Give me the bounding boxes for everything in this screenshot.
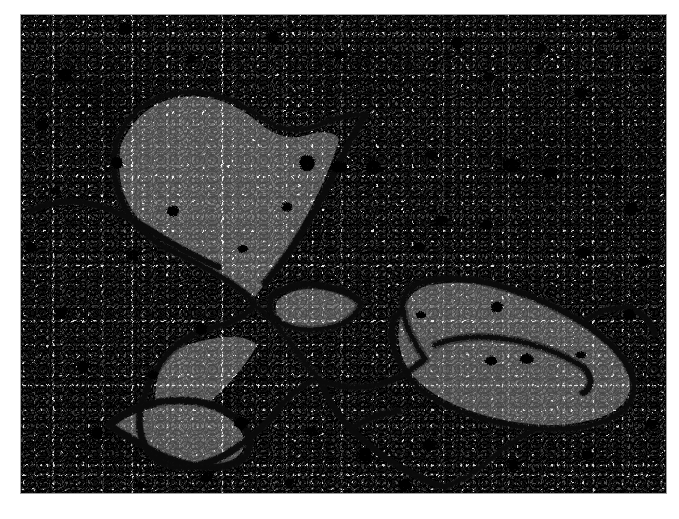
ribosome-granule xyxy=(267,31,279,43)
ribosome-granule xyxy=(536,44,546,54)
ribosome-granule xyxy=(358,448,372,462)
ribosome-granule xyxy=(238,245,248,253)
ribosome-granule xyxy=(167,205,179,216)
ribosome-granule xyxy=(201,471,213,482)
ribosome-granule xyxy=(483,73,495,82)
ribosome-granule xyxy=(331,161,347,173)
ribosome-granule xyxy=(25,242,37,252)
ribosome-granule xyxy=(611,166,623,176)
ribosome-granule xyxy=(491,301,503,312)
ribosome-granule xyxy=(502,159,520,172)
ribosome-granule xyxy=(576,248,590,258)
organelle-lumens xyxy=(115,96,630,465)
ribosome-granule xyxy=(637,255,649,266)
plate-caption xyxy=(21,497,666,515)
micrograph-page xyxy=(0,0,679,519)
ribosome-granule xyxy=(413,243,425,252)
ribosome-granule xyxy=(91,427,103,439)
ribosome-granule xyxy=(305,426,317,435)
ribosome-granule xyxy=(645,421,657,430)
ribosome-granule xyxy=(641,66,653,76)
ribosome-granule xyxy=(399,479,411,491)
ribosome-granule xyxy=(127,250,139,260)
ribosome-granule xyxy=(617,30,629,40)
ribosome-granule xyxy=(624,202,638,216)
ribosome-granule xyxy=(576,351,586,358)
ribosome-granule xyxy=(284,479,294,487)
ribosome-granule xyxy=(425,151,437,160)
membrane-segment-halo xyxy=(583,307,627,323)
membrane-overlay xyxy=(21,15,666,493)
electron-micrograph-plate xyxy=(21,15,666,493)
ribosome-granule xyxy=(623,309,635,320)
ribosome-granule xyxy=(195,323,207,335)
ribosome-granule xyxy=(334,50,344,59)
ribosome-granule xyxy=(50,187,60,194)
membrane-segment-halo xyxy=(283,381,313,403)
ribosome-granule xyxy=(542,167,556,178)
ribosome-granule xyxy=(282,202,292,211)
ribosome-granule xyxy=(234,416,248,429)
ribosome-granule xyxy=(520,354,534,364)
membrane-segment-halo xyxy=(445,431,533,487)
ribosome-granule xyxy=(485,356,497,365)
ribosome-granule xyxy=(77,361,89,373)
ribosome-granule xyxy=(423,439,435,450)
ribosome-granule xyxy=(55,307,67,318)
ribosome-granule xyxy=(136,481,146,488)
ribosome-granule xyxy=(299,155,315,171)
ribosome-granule xyxy=(58,68,72,82)
ribosome-granule xyxy=(37,120,49,130)
ribosome-granule xyxy=(481,220,493,229)
ribosome-granule xyxy=(118,22,132,35)
ribosome-granule xyxy=(111,157,123,169)
membrane-segment-halo xyxy=(351,411,399,429)
ribosome-granule xyxy=(451,37,463,49)
ribosome-granule xyxy=(416,311,426,318)
ribosome-granule xyxy=(581,450,593,459)
ribosome-granule xyxy=(575,87,587,98)
ribosome-granule xyxy=(434,215,448,226)
ribosome-granule xyxy=(186,54,196,64)
ribosome-granule xyxy=(148,371,158,380)
ribosome-granule xyxy=(507,460,519,470)
ribosome-granule xyxy=(366,160,380,174)
